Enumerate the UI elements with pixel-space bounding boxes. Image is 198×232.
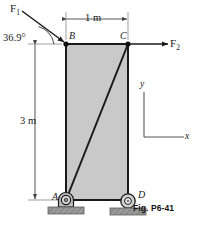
- angle-label: 36.9°: [3, 33, 26, 44]
- joint-dot-b: [63, 41, 68, 46]
- figure-caption: Fig. P6-41: [133, 204, 174, 213]
- point-a-label: A: [52, 192, 58, 202]
- force-1-arrow: [22, 11, 64, 42]
- dimension-horizontal-label: 1 m: [85, 13, 101, 24]
- figure-container: F1 36.9° 1 m 3 m B C A D F2 y x Fig. P6-…: [0, 0, 198, 232]
- force-2-label: F2: [170, 38, 180, 52]
- point-d-label: D: [138, 190, 145, 200]
- support-a-ground: [48, 207, 84, 214]
- point-c-label: C: [120, 31, 127, 41]
- force-1-label: F1: [10, 3, 20, 17]
- axis-x-label: x: [185, 132, 189, 142]
- support-d-pin: [127, 200, 130, 203]
- support-a-pin: [64, 198, 67, 201]
- joint-dot-c: [125, 41, 130, 46]
- dimension-vertical-label: 3 m: [20, 116, 36, 127]
- point-b-label: B: [69, 31, 75, 41]
- axis-y-label: y: [140, 80, 144, 90]
